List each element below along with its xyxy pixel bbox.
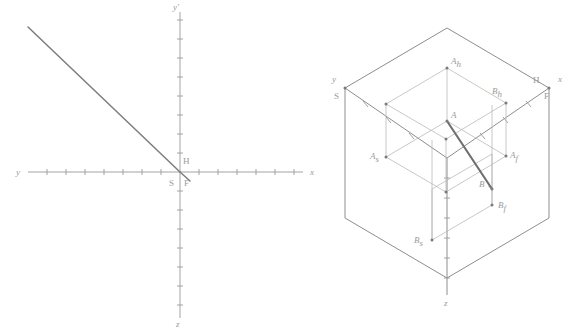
axis-label-x: x: [557, 74, 562, 84]
corner-label-S: S: [334, 91, 339, 101]
point-label-B-f: Bf: [498, 200, 508, 213]
point-label-B-h: Bh: [492, 86, 503, 99]
origin-label-H: H: [183, 156, 190, 166]
x-axis-ticks: [480, 101, 531, 139]
axis-label-y-prime-top: y': [172, 2, 180, 12]
svg-text:Bs: Bs: [414, 235, 424, 248]
point-label-A-s: As: [369, 151, 380, 164]
origin-label-F: F: [184, 178, 189, 188]
axis-label-z: z: [443, 298, 448, 308]
svg-text:Bh: Bh: [492, 86, 503, 99]
point-label-B-s: Bs: [414, 235, 424, 248]
point-label-A: A: [450, 110, 457, 120]
axonometric-cube-diagram: y S H x F z Ah Bh A Af As B Bf Bs: [320, 0, 575, 330]
figure-root: y x y' z H S F: [0, 0, 575, 330]
svg-text:Af: Af: [509, 150, 520, 163]
axis-label-y-left: y: [15, 167, 20, 177]
origin-label-S: S: [169, 178, 174, 188]
svg-text:As: As: [369, 151, 380, 164]
axis-label-y: y: [331, 74, 336, 84]
axis-label-z-bottom: z: [175, 319, 180, 329]
point-label-A-f: Af: [509, 150, 520, 163]
axis-label-x-right: x: [309, 167, 314, 177]
point-label-B: B: [479, 179, 485, 189]
corner-label-H: H: [533, 75, 540, 85]
corner-label-F: F: [544, 91, 549, 101]
coordinate-axes-diagram: y x y' z H S F: [0, 0, 320, 330]
svg-text:Ah: Ah: [450, 56, 462, 69]
projection-construction: [386, 68, 506, 240]
y-axis-ticks: [363, 101, 414, 139]
point-label-A-h: Ah: [450, 56, 462, 69]
bisector-line: [28, 27, 180, 172]
svg-text:Bf: Bf: [498, 200, 508, 213]
